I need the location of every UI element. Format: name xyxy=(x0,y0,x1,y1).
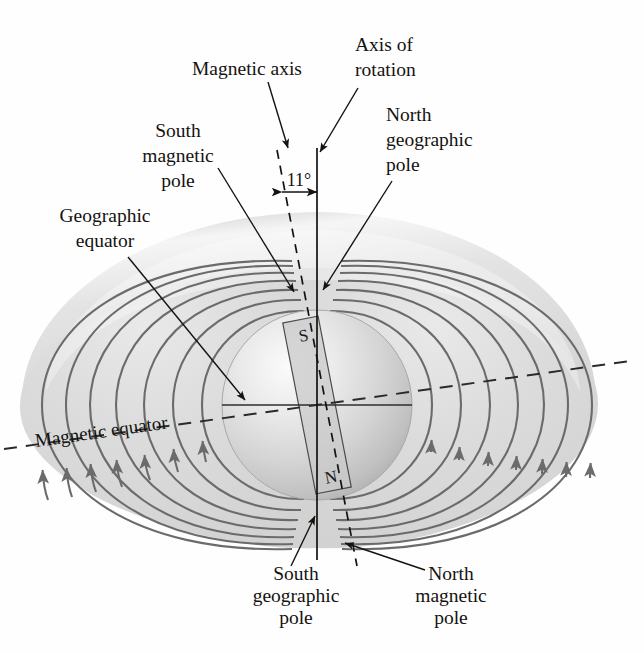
geographic-equator-label-2: equator xyxy=(76,230,135,251)
field-arrow-r4 xyxy=(516,456,517,470)
magnetic-axis-leader xyxy=(268,82,288,148)
tilt-angle-label: 11° xyxy=(287,170,312,190)
south-geographic-pole-label-1: South xyxy=(273,563,319,584)
axis-of-rotation-leader xyxy=(320,88,358,152)
tilt-angle-indicator: 11° xyxy=(282,170,317,192)
geographic-equator-label-1: Geographic xyxy=(60,205,151,226)
north-magnetic-pole-label-1: North xyxy=(428,563,474,584)
field-arrow-r7 xyxy=(590,463,591,478)
south-geographic-pole-label-3: pole xyxy=(279,607,313,628)
field-arrow-r2 xyxy=(459,447,460,460)
north-magnetic-pole-label-2: magnetic xyxy=(415,585,487,606)
field-arrow-r3 xyxy=(488,452,489,466)
north-geographic-pole-label-1: North xyxy=(386,104,432,125)
magnetic-axis-label: Magnetic axis xyxy=(192,58,302,79)
magnetic-field-diagram: S N 11° Magnetic axis Axis of rotation N… xyxy=(0,0,644,653)
field-arrow-r6 xyxy=(566,462,567,477)
axis-of-rotation-label-2: rotation xyxy=(355,59,416,80)
south-magnetic-pole-label-1: South xyxy=(155,120,201,141)
south-magnetic-pole-label-2: magnetic xyxy=(142,145,214,166)
field-arrow-r5 xyxy=(542,459,543,474)
field-arrow-l7 xyxy=(43,470,48,500)
axis-of-rotation-label-1: Axis of xyxy=(355,34,413,55)
figure-canvas: S N 11° Magnetic axis Axis of rotation N… xyxy=(0,0,644,653)
south-geographic-pole-label-2: geographic xyxy=(253,585,340,606)
north-geographic-pole-label-3: pole xyxy=(386,154,420,175)
north-geographic-pole-label-2: geographic xyxy=(386,129,473,150)
field-arrow-r1 xyxy=(431,440,432,452)
north-magnetic-pole-label-3: pole xyxy=(434,607,468,628)
south-magnetic-pole-label-3: pole xyxy=(161,170,195,191)
